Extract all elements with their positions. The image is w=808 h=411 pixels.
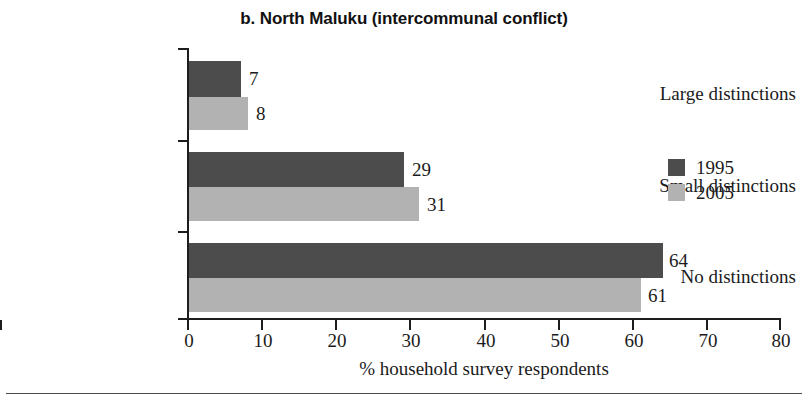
bar-value-large-distinctions-1995: 7	[249, 69, 259, 88]
x-axis-tick	[558, 320, 560, 330]
x-axis-tick-label-20: 20	[317, 330, 357, 352]
bar-value-no-distinctions-2005: 61	[648, 286, 667, 305]
bar-value-large-distinctions-2005: 8	[256, 104, 266, 123]
legend-item-1995: 1995	[668, 155, 734, 180]
x-axis-tick-label-80: 80	[761, 330, 801, 352]
chart-figure: b. North Maluku (intercommunal conflict)…	[0, 0, 808, 411]
x-axis-tick-label-40: 40	[466, 330, 506, 352]
y-axis-tick	[178, 48, 187, 50]
bar-no-distinctions-1995	[189, 243, 663, 278]
chart-title: b. North Maluku (intercommunal conflict)	[0, 9, 808, 29]
x-axis-tick	[409, 320, 411, 330]
legend-item-2005: 2005	[668, 180, 734, 205]
bar-value-small-distinctions-2005: 31	[427, 195, 446, 214]
x-axis-tick	[335, 320, 337, 330]
x-axis-tick-label-50: 50	[540, 330, 580, 352]
chart-legend: 1995 2005	[668, 155, 734, 205]
x-axis-tick	[632, 320, 634, 330]
bar-small-distinctions-1995	[189, 152, 404, 187]
x-axis-tick	[484, 320, 486, 330]
x-axis-tick-label-30: 30	[391, 330, 431, 352]
legend-swatch-2005	[668, 184, 685, 201]
bar-no-distinctions-2005	[189, 278, 641, 312]
x-axis-tick-label-0: 0	[169, 330, 209, 352]
bar-large-distinctions-2005	[189, 97, 248, 130]
x-axis-tick	[706, 320, 708, 330]
category-label-large-distinctions: Large distinctions	[630, 83, 808, 105]
x-axis-title: % household survey respondents	[187, 358, 781, 380]
x-axis-tick	[261, 320, 263, 330]
footer-divider	[6, 393, 802, 394]
bar-value-small-distinctions-1995: 29	[412, 160, 431, 179]
x-axis-tick	[0, 320, 2, 330]
legend-label-2005: 2005	[696, 183, 734, 202]
bar-small-distinctions-2005	[189, 187, 419, 221]
x-axis-tick-label-60: 60	[614, 330, 654, 352]
x-axis-tick-label-70: 70	[688, 330, 728, 352]
y-axis-tick	[178, 231, 187, 233]
legend-swatch-1995	[668, 159, 685, 176]
y-axis-tick	[178, 140, 187, 142]
legend-label-1995: 1995	[696, 158, 734, 177]
x-axis-tick-label-10: 10	[243, 330, 283, 352]
y-axis-tick	[178, 318, 187, 320]
bar-large-distinctions-1995	[189, 61, 241, 97]
x-axis-tick	[187, 320, 189, 330]
x-axis-tick	[779, 320, 781, 330]
bar-value-no-distinctions-1995: 64	[669, 251, 688, 270]
